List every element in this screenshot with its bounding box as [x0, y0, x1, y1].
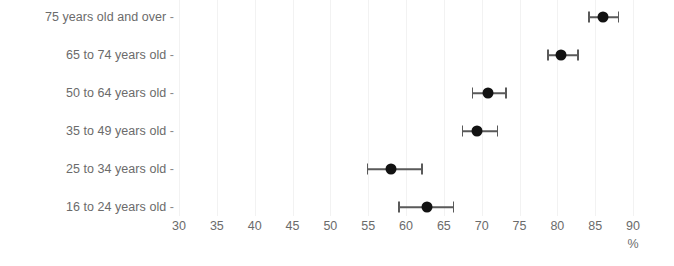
y-axis-tick-dash: -	[166, 48, 174, 62]
y-axis-category-label: 75 years old and over -	[45, 10, 174, 24]
x-axis-tick-label: 90	[626, 219, 640, 233]
gridline	[255, 0, 256, 216]
x-axis-tick-label: 70	[475, 219, 489, 233]
data-point-marker	[483, 88, 494, 99]
data-point-marker	[597, 12, 608, 23]
gridline	[330, 0, 331, 216]
confidence-interval-cap	[421, 164, 423, 175]
gridline	[595, 0, 596, 216]
confidence-interval-cap	[505, 88, 507, 99]
y-axis-category-label: 25 to 34 years old -	[66, 162, 174, 176]
y-axis-tick-dash: -	[166, 162, 174, 176]
data-point-marker	[422, 202, 433, 213]
gridline	[444, 0, 445, 216]
y-axis-category-text: 35 to 49 years old	[66, 124, 166, 138]
confidence-interval-cap	[367, 164, 369, 175]
y-axis-category-text: 25 to 34 years old	[66, 162, 166, 176]
y-axis-tick-dash: -	[166, 124, 174, 138]
x-axis-tick-label: 30	[172, 219, 186, 233]
y-axis-category-label: 35 to 49 years old -	[66, 124, 174, 138]
x-axis-tick-label: 35	[210, 219, 224, 233]
confidence-interval-cap	[618, 12, 620, 23]
x-axis-tick-label: 85	[588, 219, 602, 233]
y-axis-tick-dash: -	[166, 86, 174, 100]
x-axis-tick-label: 65	[437, 219, 451, 233]
data-point-marker	[556, 50, 567, 61]
gridline	[293, 0, 294, 216]
confidence-interval-cap	[497, 126, 499, 137]
data-point-marker	[385, 164, 396, 175]
confidence-interval-cap	[547, 50, 549, 61]
gridline	[520, 0, 521, 216]
confidence-interval-cap	[453, 202, 455, 213]
x-axis-tick-label: 50	[323, 219, 337, 233]
x-axis-tick-label: 45	[286, 219, 300, 233]
confidence-interval-cap	[462, 126, 464, 137]
y-axis-category-label: 50 to 64 years old -	[66, 86, 174, 100]
y-axis-category-text: 50 to 64 years old	[66, 86, 166, 100]
gridline	[406, 0, 407, 216]
data-point-marker	[472, 126, 483, 137]
x-axis: 30354045505560657075808590 %	[0, 216, 674, 266]
y-axis-category-text: 65 to 74 years old	[66, 48, 166, 62]
y-axis-tick-dash: -	[166, 200, 174, 214]
gridline	[482, 0, 483, 216]
y-axis-category-text: 16 to 24 years old	[66, 200, 166, 214]
gridline	[368, 0, 369, 216]
y-axis-category-text: 75 years old and over	[45, 10, 166, 24]
x-axis-tick-label: 60	[399, 219, 413, 233]
y-axis-tick-dash: -	[166, 10, 174, 24]
gridline	[217, 0, 218, 216]
x-axis-tick-label: 40	[248, 219, 262, 233]
x-axis-unit-text: %	[627, 237, 638, 251]
gridline	[633, 0, 634, 216]
y-axis-category-label: 65 to 74 years old -	[66, 48, 174, 62]
x-axis-tick-label: 80	[550, 219, 564, 233]
y-axis-labels: 75 years old and over -65 to 74 years ol…	[0, 0, 179, 216]
y-axis-category-label: 16 to 24 years old -	[66, 200, 174, 214]
confidence-interval-cap	[472, 88, 474, 99]
confidence-interval-cap	[398, 202, 400, 213]
dot-plot-chart: 75 years old and over -65 to 74 years ol…	[0, 0, 674, 266]
x-axis-tick-label: 75	[513, 219, 527, 233]
x-axis-tick-label: 55	[361, 219, 375, 233]
gridline	[179, 0, 180, 216]
confidence-interval-cap	[588, 12, 590, 23]
confidence-interval-cap	[577, 50, 579, 61]
gridline	[557, 0, 558, 216]
